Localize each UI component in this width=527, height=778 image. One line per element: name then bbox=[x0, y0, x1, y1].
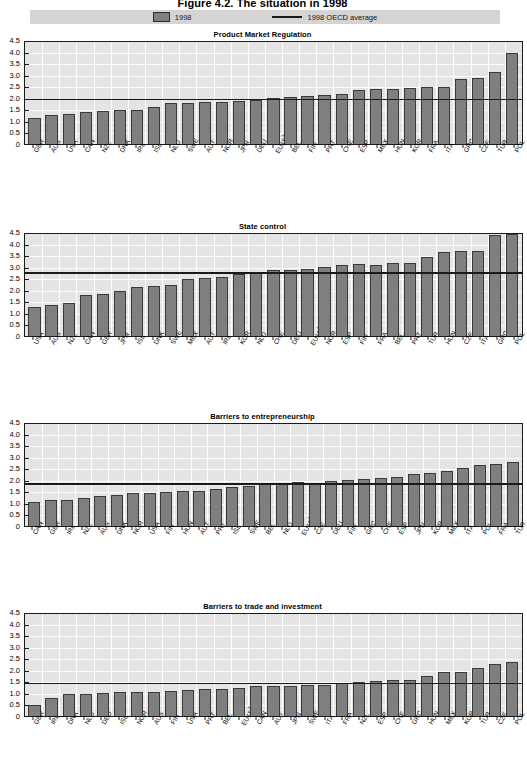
bar[interactable] bbox=[506, 662, 518, 716]
bar[interactable] bbox=[342, 480, 354, 526]
bar[interactable] bbox=[45, 500, 57, 526]
bar[interactable] bbox=[455, 79, 467, 144]
bar[interactable] bbox=[131, 110, 143, 144]
bar[interactable] bbox=[199, 278, 211, 336]
bar[interactable] bbox=[216, 689, 228, 716]
bar[interactable] bbox=[441, 471, 453, 526]
bar[interactable] bbox=[114, 692, 126, 716]
bar[interactable] bbox=[97, 294, 109, 336]
bar[interactable] bbox=[97, 693, 109, 716]
bar[interactable] bbox=[489, 664, 501, 716]
bar[interactable] bbox=[259, 484, 271, 526]
bar[interactable] bbox=[233, 101, 245, 144]
bar[interactable] bbox=[61, 500, 73, 526]
bar[interactable] bbox=[336, 265, 348, 336]
bar[interactable] bbox=[318, 267, 330, 336]
bar[interactable] bbox=[301, 269, 313, 336]
bar[interactable] bbox=[424, 473, 436, 526]
bar[interactable] bbox=[489, 235, 501, 336]
bar[interactable] bbox=[250, 100, 262, 144]
bar[interactable] bbox=[28, 502, 40, 526]
bar[interactable] bbox=[165, 285, 177, 336]
bar[interactable] bbox=[370, 265, 382, 336]
bar[interactable] bbox=[226, 487, 238, 526]
bar[interactable] bbox=[63, 114, 75, 144]
bar[interactable] bbox=[243, 486, 255, 526]
bar[interactable] bbox=[353, 264, 365, 336]
bar[interactable] bbox=[28, 307, 40, 336]
bar[interactable] bbox=[472, 668, 484, 716]
bar[interactable] bbox=[472, 251, 484, 337]
bar[interactable] bbox=[358, 479, 370, 526]
bar[interactable] bbox=[28, 118, 40, 144]
bar[interactable] bbox=[160, 492, 172, 526]
bar[interactable] bbox=[438, 252, 450, 336]
bar[interactable] bbox=[455, 251, 467, 336]
bar[interactable] bbox=[375, 478, 387, 526]
bar[interactable] bbox=[438, 672, 450, 716]
bar[interactable] bbox=[94, 496, 106, 526]
bar[interactable] bbox=[45, 115, 57, 144]
bar[interactable] bbox=[144, 493, 156, 526]
bar[interactable] bbox=[391, 477, 403, 526]
bar[interactable] bbox=[489, 72, 501, 144]
bar[interactable] bbox=[336, 683, 348, 716]
bar[interactable] bbox=[284, 97, 296, 144]
bar[interactable] bbox=[233, 688, 245, 716]
bar[interactable] bbox=[421, 87, 433, 144]
bar[interactable] bbox=[336, 94, 348, 144]
bar[interactable] bbox=[216, 277, 228, 336]
bar[interactable] bbox=[284, 686, 296, 717]
bar[interactable] bbox=[45, 305, 57, 336]
bar[interactable] bbox=[318, 95, 330, 144]
bar[interactable] bbox=[421, 257, 433, 336]
bar[interactable] bbox=[276, 483, 288, 526]
bar[interactable] bbox=[148, 286, 160, 336]
bar[interactable] bbox=[457, 468, 469, 526]
bar[interactable] bbox=[210, 489, 222, 526]
bar[interactable] bbox=[182, 279, 194, 336]
bar[interactable] bbox=[408, 474, 420, 526]
bar[interactable] bbox=[127, 493, 139, 526]
bar[interactable] bbox=[233, 274, 245, 336]
bar[interactable] bbox=[507, 462, 519, 526]
bar[interactable] bbox=[199, 689, 211, 716]
bar[interactable] bbox=[387, 680, 399, 716]
bar[interactable] bbox=[28, 705, 40, 716]
bar[interactable] bbox=[165, 691, 177, 716]
bar[interactable] bbox=[370, 89, 382, 144]
bar[interactable] bbox=[309, 483, 321, 526]
bar[interactable] bbox=[404, 88, 416, 144]
bar[interactable] bbox=[404, 263, 416, 336]
bar[interactable] bbox=[267, 686, 279, 716]
bar[interactable] bbox=[387, 263, 399, 336]
bar[interactable] bbox=[438, 87, 450, 144]
bar[interactable] bbox=[131, 692, 143, 716]
bar[interactable] bbox=[114, 110, 126, 144]
bar[interactable] bbox=[97, 111, 109, 144]
bar[interactable] bbox=[370, 681, 382, 716]
bar[interactable] bbox=[490, 464, 502, 526]
bar[interactable] bbox=[193, 491, 205, 526]
bar[interactable] bbox=[284, 270, 296, 336]
bar[interactable] bbox=[78, 498, 90, 526]
bar[interactable] bbox=[318, 685, 330, 716]
bar[interactable] bbox=[267, 270, 279, 336]
bar[interactable] bbox=[182, 690, 194, 716]
bar[interactable] bbox=[131, 287, 143, 336]
bar[interactable] bbox=[199, 102, 211, 144]
bar[interactable] bbox=[250, 686, 262, 716]
bar[interactable] bbox=[353, 682, 365, 716]
bar[interactable] bbox=[45, 698, 57, 716]
bar[interactable] bbox=[63, 303, 75, 337]
bar[interactable] bbox=[80, 694, 92, 716]
bar[interactable] bbox=[472, 78, 484, 144]
bar[interactable] bbox=[148, 107, 160, 144]
bar[interactable] bbox=[387, 89, 399, 144]
bar[interactable] bbox=[455, 672, 467, 716]
bar[interactable] bbox=[114, 291, 126, 336]
bar[interactable] bbox=[80, 295, 92, 336]
bar[interactable] bbox=[111, 495, 123, 526]
bar[interactable] bbox=[325, 481, 337, 526]
bar[interactable] bbox=[80, 112, 92, 144]
